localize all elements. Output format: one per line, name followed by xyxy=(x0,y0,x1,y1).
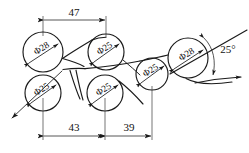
angle-arc-25 xyxy=(204,38,214,75)
dimension-label-43: 43 xyxy=(69,121,81,133)
dimension-group-47: 47 xyxy=(43,6,106,37)
tangent-upper-left-to-middle xyxy=(63,40,93,59)
angle-group-25: 25° xyxy=(204,38,236,75)
engineering-drawing-svg: 47 xyxy=(0,0,249,153)
center-wedge-tip-right xyxy=(76,70,83,100)
technical-drawing-canvas: 47 xyxy=(0,0,249,153)
center-wedge-tip-left xyxy=(70,71,80,100)
dimension-label-47: 47 xyxy=(69,6,81,18)
roller-upper-middle: Φ25 xyxy=(88,34,124,70)
center-wedge-lower-edge xyxy=(63,68,85,69)
roller-right-small: Φ25 xyxy=(136,58,168,90)
right-bottom-sweep-lower xyxy=(195,77,241,83)
center-wedge-upper-edge xyxy=(63,59,85,67)
dimension-label-39: 39 xyxy=(124,121,136,133)
roller-upper-left: Φ28 xyxy=(23,32,63,72)
angle-label-25: 25° xyxy=(220,43,235,55)
roller-circles: Φ28 Φ25 Φ25 Φ25 xyxy=(23,32,208,111)
roller-right-large: Φ28 xyxy=(168,38,208,78)
right-bottom-sweep-curve xyxy=(186,79,232,84)
